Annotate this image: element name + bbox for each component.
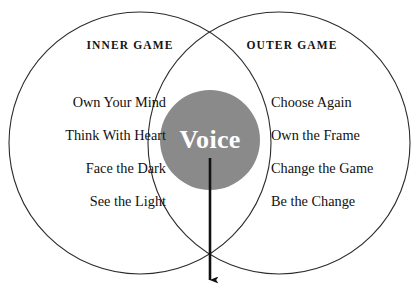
- list-item: Own Your Mind: [14, 86, 166, 119]
- list-item: Face the Dark: [14, 152, 166, 185]
- list-item: See the Light: [14, 185, 166, 218]
- list-item: Think With Heart: [14, 119, 166, 152]
- venn-text-layer: INNER GAME OUTER GAME Own Your Mind Thin…: [0, 0, 418, 294]
- left-set-title: INNER GAME: [64, 39, 196, 51]
- list-item: Own the Frame: [271, 119, 417, 152]
- intersection-label: Voice: [160, 125, 260, 155]
- list-item: Change the Game: [271, 152, 417, 185]
- right-set-item-list: Choose Again Own the Frame Change the Ga…: [271, 86, 417, 218]
- list-item: Choose Again: [271, 86, 417, 119]
- venn-diagram: INNER GAME OUTER GAME Own Your Mind Thin…: [0, 0, 418, 294]
- right-set-title: OUTER GAME: [226, 39, 358, 51]
- left-set-item-list: Own Your Mind Think With Heart Face the …: [14, 86, 166, 218]
- list-item: Be the Change: [271, 185, 417, 218]
